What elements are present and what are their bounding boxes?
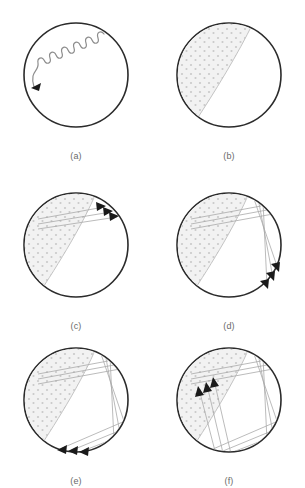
panel-d-canvas	[153, 170, 305, 333]
panel-e: (e)	[0, 325, 152, 488]
panel-d: (d)	[153, 170, 305, 333]
panel-b-canvas	[153, 0, 305, 163]
figure-container: (a) (b)	[0, 0, 305, 488]
panel-c-canvas	[0, 170, 152, 333]
panel-c: (c)	[0, 170, 152, 333]
panel-b: (b)	[153, 0, 305, 163]
panel-a: (a)	[0, 0, 152, 163]
panel-label-f: (f)	[153, 476, 305, 486]
panel-f: (f)	[153, 325, 305, 488]
circle-boundary	[24, 23, 128, 127]
panel-label-b: (b)	[153, 151, 305, 161]
panel-label-e: (e)	[0, 476, 152, 486]
panel-e-canvas	[0, 325, 152, 488]
panel-label-a: (a)	[0, 151, 152, 161]
panel-a-canvas	[0, 0, 152, 163]
panel-f-canvas	[153, 325, 305, 488]
